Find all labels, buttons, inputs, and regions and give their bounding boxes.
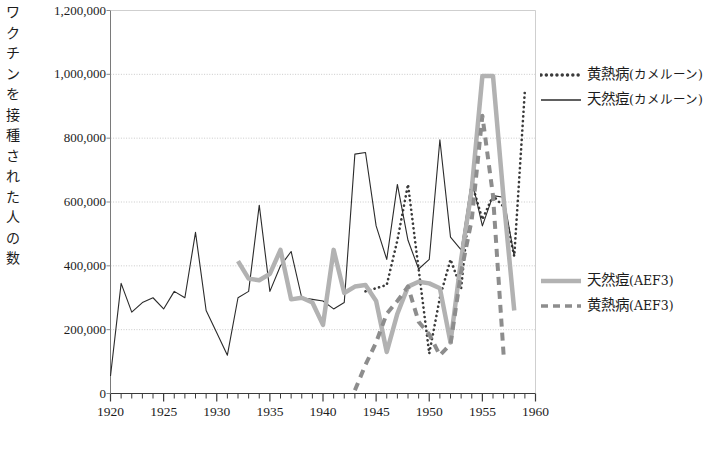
legend-aef3: 天然痘(AEF3)黄熱病(AEF3) [540, 268, 674, 318]
x-tick-label-1960: 1960 [511, 404, 561, 420]
y-tick-label-400000: 400,000 [24, 258, 106, 274]
legend-label-main: 黄熱病 [587, 66, 629, 82]
x-tick-label-1925: 1925 [139, 404, 189, 420]
legend-swatch-solid-black [540, 93, 582, 107]
x-tick-label-1945: 1945 [351, 404, 401, 420]
x-tick-label-1955: 1955 [457, 404, 507, 420]
legend-item[interactable]: 天然痘(カメルーン) [540, 87, 703, 112]
legend-item-label: 天然痘(カメルーン) [587, 92, 703, 107]
legend-item[interactable]: 黄熱病(AEF3) [540, 293, 674, 318]
series-smallpox_cameroon [111, 140, 515, 376]
y-tick-label-1000000: 1,000,000 [24, 66, 106, 82]
y-tick-label-200000: 200,000 [24, 322, 106, 338]
legend-label-main: 黄熱病 [587, 297, 629, 313]
legend-item-label: 黄熱病(AEF3) [587, 298, 674, 313]
x-tick-label-1930: 1930 [192, 404, 242, 420]
legend-item[interactable]: 黄熱病(カメルーン) [540, 62, 703, 87]
y-tick-label-800000: 800,000 [24, 130, 106, 146]
x-tick-label-1935: 1935 [245, 404, 295, 420]
legend-swatch-dotted [540, 68, 582, 82]
y-tick-label-600000: 600,000 [24, 194, 106, 210]
legend-label-paren: (AEF3) [629, 273, 674, 288]
vaccination-line-chart: ワクチンを接種された人の数 0200,000400,000600,000800,… [0, 0, 706, 452]
legend-item[interactable]: 天然痘(AEF3) [540, 268, 674, 293]
x-tick-label-1950: 1950 [404, 404, 454, 420]
legend-label-main: 天然痘 [587, 91, 629, 107]
legend-label-paren: (AEF3) [629, 298, 674, 313]
x-tick-label-1940: 1940 [298, 404, 348, 420]
legend-label-paren: (カメルーン) [629, 92, 703, 107]
legend-label-main: 天然痘 [587, 272, 629, 288]
legend-swatch-dashed-gray [540, 299, 582, 313]
y-tick-label-1200000: 1,200,000 [24, 3, 106, 19]
legend-cameroon: 黄熱病(カメルーン)天然痘(カメルーン) [540, 62, 703, 112]
legend-item-label: 天然痘(AEF3) [587, 273, 674, 288]
legend-label-paren: (カメルーン) [629, 67, 703, 82]
x-tick-label-1920: 1920 [86, 404, 136, 420]
legend-item-label: 黄熱病(カメルーン) [587, 67, 703, 82]
y-tick-label-0: 0 [24, 386, 106, 402]
legend-swatch-solid-gray [540, 274, 582, 288]
